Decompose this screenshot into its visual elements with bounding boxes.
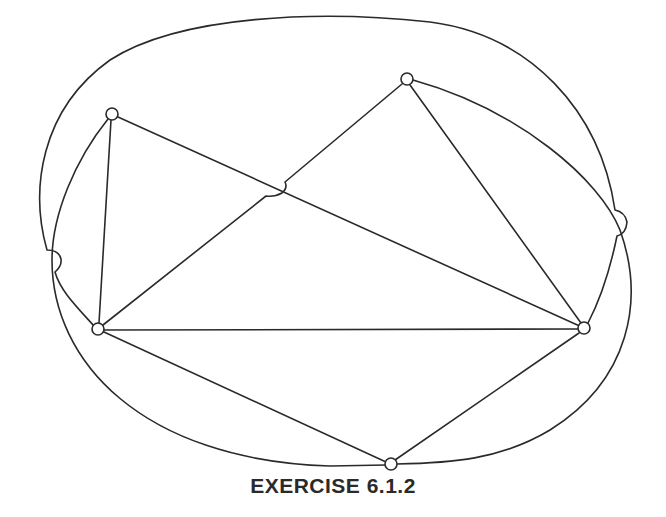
edge-c-b	[103, 84, 402, 325]
edge-b-e-curve	[397, 80, 631, 464]
graph-diagram	[0, 0, 666, 517]
edge-d-e	[395, 333, 579, 460]
graph-nodes	[92, 73, 590, 470]
node-d	[578, 322, 590, 334]
edge-c-d-outer-arc	[40, 16, 627, 326]
edge-a-e-curve	[52, 119, 386, 466]
edge-c-d	[104, 329, 578, 330]
node-b	[401, 73, 413, 85]
edge-c-e	[104, 332, 386, 462]
node-c	[92, 323, 104, 335]
edge-a-d	[118, 117, 584, 328]
node-a	[106, 108, 118, 120]
edge-a-c	[99, 120, 111, 323]
graph-edges	[40, 16, 631, 466]
figure-caption: EXERCISE 6.1.2	[0, 474, 666, 498]
node-e	[385, 458, 397, 470]
